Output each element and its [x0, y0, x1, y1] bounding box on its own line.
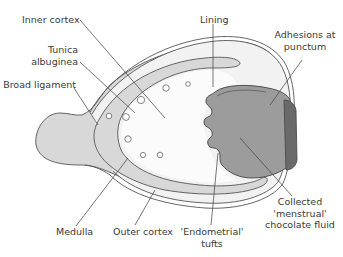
- label-lining: Lining: [200, 14, 229, 26]
- label-adhesions-line2: punctum: [272, 41, 338, 53]
- label-adhesions-punctum: Adhesions at punctum: [272, 29, 338, 52]
- label-endometrial-line2: tufts: [178, 238, 246, 250]
- label-medulla: Medulla: [56, 226, 93, 238]
- label-collected-line2: 'menstrual': [260, 208, 340, 220]
- label-tunica-line1: Tunica: [30, 44, 78, 56]
- label-tunica-line2: albuginea: [30, 56, 78, 68]
- label-collected-line1: Collected: [260, 196, 340, 208]
- label-broad-ligament: Broad ligament: [0, 79, 76, 91]
- label-endometrial-line1: 'Endometrial': [178, 226, 246, 238]
- label-collected-line3: chocolate fluid: [260, 219, 340, 231]
- adhesions-punctum: [284, 100, 297, 170]
- label-collected-fluid: Collected 'menstrual' chocolate fluid: [260, 196, 340, 231]
- label-outer-cortex: Outer cortex: [113, 226, 173, 238]
- label-inner-cortex: Inner cortex: [22, 14, 77, 26]
- label-tunica-albuginea: Tunica albuginea: [30, 44, 78, 67]
- label-endometrial-tufts: 'Endometrial' tufts: [178, 226, 246, 249]
- label-adhesions-line1: Adhesions at: [272, 29, 338, 41]
